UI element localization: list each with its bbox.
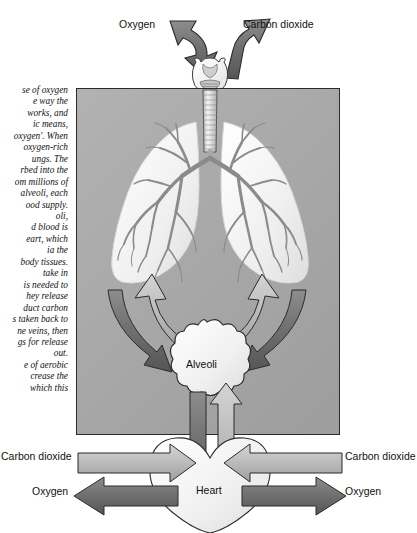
label-oxygen-top: Oxygen xyxy=(119,18,155,30)
label-oxygen-left: Oxygen xyxy=(32,485,68,497)
label-oxygen-right: Oxygen xyxy=(345,485,381,497)
label-alveoli: Alveoli xyxy=(186,358,217,370)
label-heart: Heart xyxy=(196,484,222,496)
label-carbon-dioxide-right: Carbon dioxide xyxy=(345,450,416,462)
label-carbon-dioxide-left: Carbon dioxide xyxy=(1,450,72,462)
trachea xyxy=(203,90,217,152)
body-text: se of oxygen e way the works, and ic mea… xyxy=(0,85,68,394)
respiratory-diagram: se of oxygen e way the works, and ic mea… xyxy=(0,0,417,533)
label-carbon-dioxide-top: Carbon dioxide xyxy=(243,18,314,30)
